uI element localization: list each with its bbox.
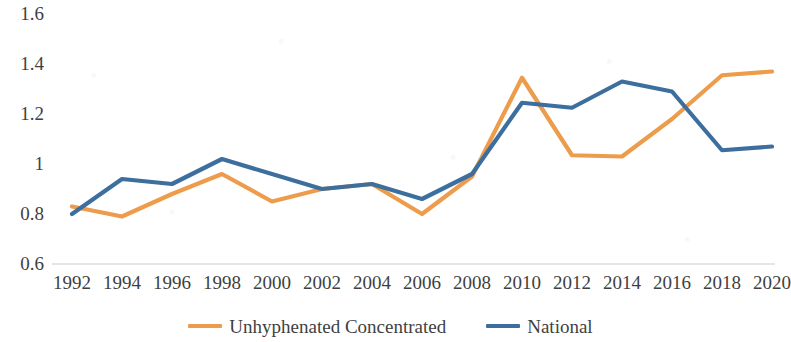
x-axis-tick-label: 1998 (203, 272, 241, 294)
legend-line-swatch-icon (486, 324, 520, 328)
x-axis-tick-label: 1994 (103, 272, 141, 294)
x-axis-tick-label: 1992 (53, 272, 91, 294)
legend-line-swatch-icon (188, 324, 222, 328)
x-axis: 1992199419961998200020022004200620082010… (0, 272, 781, 300)
series-svg (0, 0, 781, 280)
x-axis-tick-label: 2020 (753, 272, 791, 294)
legend-item[interactable]: Unhyphenated Concentrated (188, 316, 446, 337)
x-axis-tick-label: 2010 (503, 272, 541, 294)
x-axis-tick-label: 2004 (353, 272, 391, 294)
x-axis-tick-label: 2006 (403, 272, 441, 294)
x-axis-tick-label: 2014 (603, 272, 641, 294)
plot-area (0, 0, 781, 280)
x-axis-tick-label: 2002 (303, 272, 341, 294)
x-axis-tick-label: 1996 (153, 272, 191, 294)
x-axis-tick-label: 2012 (553, 272, 591, 294)
legend-label: Unhyphenated Concentrated (229, 316, 446, 337)
x-axis-tick-label: 2008 (453, 272, 491, 294)
chart-legend: Unhyphenated ConcentratedNational (0, 310, 781, 342)
x-axis-tick-label: 2016 (653, 272, 691, 294)
series-line-unhyphenated-concentrated (72, 72, 772, 217)
legend-label: National (527, 316, 592, 337)
x-axis-tick-label: 2018 (703, 272, 741, 294)
legend-item[interactable]: National (486, 316, 592, 337)
x-axis-tick-label: 2000 (253, 272, 291, 294)
